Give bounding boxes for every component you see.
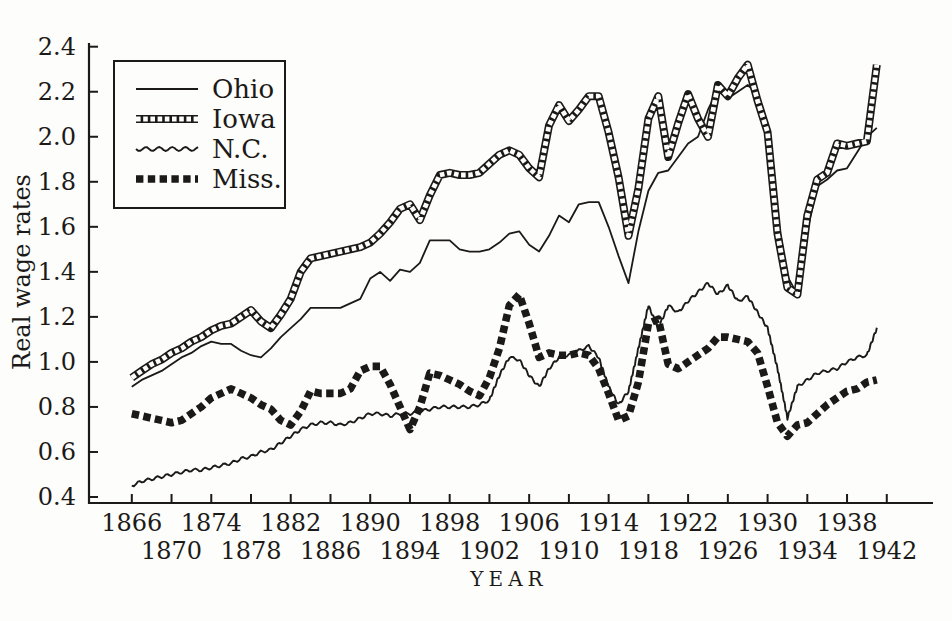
x-tick-label-lower: 1886 bbox=[300, 537, 361, 565]
legend-item-miss: Miss. bbox=[135, 164, 284, 194]
y-tick-label: 1.6 bbox=[38, 213, 76, 241]
x-tick-label-upper: 1906 bbox=[499, 509, 560, 537]
x-tick-label-upper: 1938 bbox=[817, 509, 878, 537]
x-tick-label-upper: 1914 bbox=[578, 509, 639, 537]
x-tick-label-lower: 1934 bbox=[777, 537, 838, 565]
iowa-line-swatch-icon bbox=[135, 109, 199, 129]
x-tick-label-lower: 1878 bbox=[220, 537, 281, 565]
legend-item-nc: N.C. bbox=[135, 134, 284, 164]
x-tick-label-upper: 1922 bbox=[658, 509, 719, 537]
x-tick-label-upper: 1874 bbox=[181, 509, 242, 537]
x-tick-label-lower: 1926 bbox=[697, 537, 758, 565]
y-tick-label: 2.0 bbox=[38, 123, 76, 151]
x-tick-label-upper: 1866 bbox=[101, 509, 162, 537]
series-path bbox=[136, 147, 198, 151]
y-tick-label: 2.4 bbox=[38, 33, 76, 61]
y-tick-label: 1.4 bbox=[38, 258, 76, 286]
legend-label-iowa: Iowa bbox=[212, 106, 276, 132]
x-tick-label-upper: 1882 bbox=[260, 509, 321, 537]
y-tick-label: 1.0 bbox=[38, 348, 76, 376]
chart-legend: Ohio Iowa N.C. Miss. bbox=[113, 60, 286, 209]
legend-label-miss: Miss. bbox=[212, 166, 282, 192]
figure-page: 2.42.22.01.81.61.41.21.00.80.60.41866187… bbox=[0, 0, 952, 621]
y-tick-label: 2.2 bbox=[38, 78, 76, 106]
legend-item-ohio: Ohio bbox=[135, 74, 284, 104]
y-tick-label: 0.8 bbox=[38, 393, 76, 421]
x-tick-label-lower: 1910 bbox=[538, 537, 599, 565]
x-tick-label-lower: 1870 bbox=[141, 537, 202, 565]
miss-line-swatch-icon bbox=[135, 169, 199, 189]
x-axis-title: YEAR bbox=[469, 567, 547, 591]
x-tick-label-lower: 1894 bbox=[379, 537, 440, 565]
legend-label-ohio: Ohio bbox=[212, 76, 274, 102]
y-tick-label: 1.2 bbox=[38, 303, 76, 331]
x-tick-label-upper: 1930 bbox=[737, 509, 798, 537]
y-tick-label: 0.4 bbox=[38, 483, 76, 511]
nc-line-swatch-icon bbox=[135, 139, 199, 159]
x-tick-label-lower: 1942 bbox=[856, 537, 917, 565]
legend-item-iowa: Iowa bbox=[135, 104, 284, 134]
x-tick-label-lower: 1918 bbox=[618, 537, 679, 565]
y-axis-title: Real wage rates bbox=[8, 174, 36, 370]
x-tick-label-upper: 1890 bbox=[340, 509, 401, 537]
y-tick-label: 1.8 bbox=[38, 168, 76, 196]
y-tick-label: 0.6 bbox=[38, 438, 76, 466]
x-tick-label-upper: 1898 bbox=[419, 509, 480, 537]
ohio-line-swatch-icon bbox=[135, 79, 199, 99]
x-tick-label-lower: 1902 bbox=[459, 537, 520, 565]
legend-label-nc: N.C. bbox=[212, 136, 269, 162]
